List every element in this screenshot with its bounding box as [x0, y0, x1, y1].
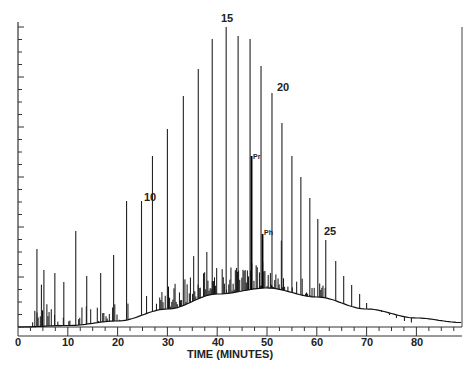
x-tick-60: 60: [311, 336, 323, 348]
x-tick-40: 40: [212, 336, 224, 348]
peak-label-c25: 25: [324, 225, 336, 237]
peak-label-pristane: Pr: [253, 153, 261, 160]
minor-peaks: [33, 241, 326, 327]
x-tick-70: 70: [361, 336, 373, 348]
x-tick-10: 10: [62, 336, 74, 348]
x-axis-ticks: [18, 327, 462, 336]
chromatogram-chart: 0 10 20 30 40 50 60 70 80 TIME (MINUTES)…: [0, 0, 475, 373]
x-tick-0: 0: [15, 336, 21, 348]
x-tick-30: 30: [162, 336, 174, 348]
n-alkane-peaks: [37, 27, 411, 327]
x-axis-title: TIME (MINUTES): [187, 348, 273, 360]
peak-label-phytane: Ph: [264, 229, 273, 236]
x-tick-80: 80: [411, 336, 423, 348]
x-tick-20: 20: [112, 336, 124, 348]
y-axis-ticks: [18, 27, 24, 327]
peak-label-c10: 10: [144, 191, 156, 203]
peak-label-c15: 15: [221, 12, 233, 24]
peak-label-c20: 20: [277, 81, 289, 93]
x-tick-50: 50: [261, 336, 273, 348]
ucm-hump: [18, 288, 461, 327]
